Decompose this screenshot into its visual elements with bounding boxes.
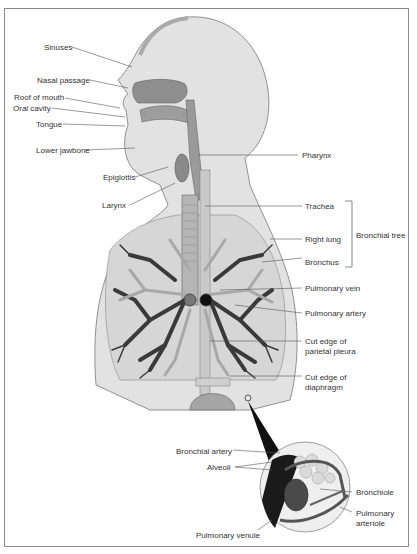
trachea — [182, 195, 198, 305]
nasal-cavity — [133, 79, 188, 103]
label-cut-edge-pleura-2: parietal pleura — [305, 347, 356, 356]
label-sinuses: Sinuses — [44, 43, 72, 52]
label-bronchiole: Bronchiole — [356, 488, 394, 497]
label-bronchial-artery: Bronchial artery — [176, 447, 232, 456]
label-nasal-passage: Nasal passage — [37, 76, 90, 85]
label-cut-edge-diaphragm-2: diaphragm — [305, 383, 343, 392]
label-pulmonary-arteriole-1: Pulmonary — [356, 509, 394, 518]
label-pharynx: Pharynx — [302, 151, 331, 160]
label-lower-jawbone: Lower jawbone — [36, 146, 90, 155]
alveoli-inset — [260, 442, 350, 532]
label-alveoli: Alveoli — [207, 463, 231, 472]
label-oral-cavity: Oral cavity — [13, 104, 51, 113]
label-pulmonary-artery: Pulmonary artery — [305, 309, 366, 318]
label-pulmonary-arteriole-2: arteriole — [356, 519, 385, 528]
label-cut-edge-diaphragm-1: Cut edge of — [305, 373, 346, 382]
label-right-lung: Right lung — [305, 235, 341, 244]
label-cut-edge-pleura-1: Cut edge of — [305, 337, 346, 346]
label-bronchus: Bronchus — [305, 258, 339, 267]
label-larynx: Larynx — [102, 201, 126, 210]
label-bronchial-tree: Bronchial tree — [356, 231, 405, 240]
label-epiglottis: Epiglottis — [103, 173, 135, 182]
label-trachea: Trachea — [305, 202, 334, 211]
label-pulmonary-venule: Pulmonary venule — [196, 531, 260, 540]
label-pulmonary-vein: Pulmonary vein — [305, 284, 360, 293]
label-tongue: Tongue — [36, 120, 62, 129]
label-roof-of-mouth: Roof of mouth — [14, 93, 64, 102]
